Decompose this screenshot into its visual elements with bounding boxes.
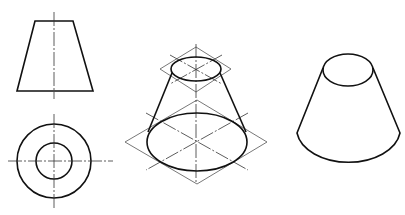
front-view bbox=[17, 12, 93, 99]
isometric-construction bbox=[125, 44, 267, 184]
result-top-ellipse bbox=[323, 54, 373, 86]
drawing-canvas bbox=[0, 0, 405, 215]
result-body-outline bbox=[297, 68, 400, 162]
isometric-result bbox=[297, 54, 400, 162]
right-generatrix bbox=[220, 73, 246, 132]
bottom-ellipse bbox=[147, 113, 247, 171]
top-view bbox=[8, 114, 113, 210]
trapezoid-outline bbox=[17, 21, 93, 91]
